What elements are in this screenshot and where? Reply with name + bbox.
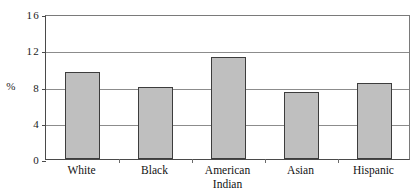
bar	[138, 87, 173, 159]
x-axis-label: Black	[118, 164, 191, 178]
y-tick-mark	[42, 161, 46, 162]
y-tick-label-0: 0	[18, 154, 40, 166]
bar-chart: % 0 4 8 12 16 WhiteBlackAmerican IndianA…	[0, 0, 419, 193]
x-axis-label: White	[45, 164, 118, 178]
plot-area	[45, 15, 410, 160]
y-tick-label-4: 4	[18, 118, 40, 130]
x-tick-mark	[192, 159, 193, 163]
x-axis-label: Hispanic	[337, 164, 410, 178]
y-tick-label-12: 12	[18, 45, 40, 57]
y-tick-label-8: 8	[18, 82, 40, 94]
bar	[211, 57, 246, 159]
bar	[357, 83, 392, 159]
y-tick-mark	[42, 125, 46, 126]
x-tick-mark	[265, 159, 266, 163]
y-axis-tick-labels: 0 4 8 12 16	[18, 0, 40, 193]
y-tick-mark	[42, 52, 46, 53]
x-tick-mark	[119, 159, 120, 163]
x-axis-label: American Indian	[191, 164, 264, 191]
y-tick-mark	[42, 89, 46, 90]
bar	[284, 92, 319, 159]
y-tick-label-16: 16	[18, 9, 40, 21]
bar	[65, 72, 100, 159]
y-tick-mark	[42, 16, 46, 17]
x-axis-label: Asian	[264, 164, 337, 178]
gridline	[46, 52, 409, 53]
x-tick-mark	[338, 159, 339, 163]
